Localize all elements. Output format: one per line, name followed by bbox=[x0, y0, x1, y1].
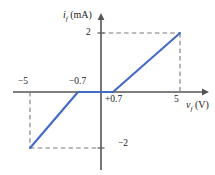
x-tick-label-minus07: −0.7 bbox=[69, 77, 86, 87]
y-axis-title: if (mA) bbox=[63, 10, 92, 23]
y-axis-arrow-icon bbox=[98, 13, 105, 20]
x-axis-subscript: f bbox=[190, 105, 192, 113]
x-axis-arrow-icon bbox=[202, 89, 209, 96]
x-tick-label-minus5: −5 bbox=[18, 77, 28, 87]
x-tick-label-plus07: +0.7 bbox=[105, 95, 122, 105]
y-tick-label-2: 2 bbox=[86, 28, 91, 38]
diode-characteristic-figure: if (mA) vf (V) 2 −2 −5 −0.7 +0.7 5 bbox=[0, 0, 215, 175]
y-axis-unit: (mA) bbox=[70, 9, 92, 20]
x-tick-label-5: 5 bbox=[174, 95, 179, 105]
y-axis-subscript: f bbox=[66, 15, 68, 23]
diode-characteristic-curve bbox=[30, 33, 180, 148]
y-tick-label-minus2: −2 bbox=[118, 139, 128, 149]
x-axis-unit: (V) bbox=[195, 99, 209, 110]
plot-canvas bbox=[0, 0, 215, 175]
x-axis-title: vf (V) bbox=[186, 100, 209, 113]
